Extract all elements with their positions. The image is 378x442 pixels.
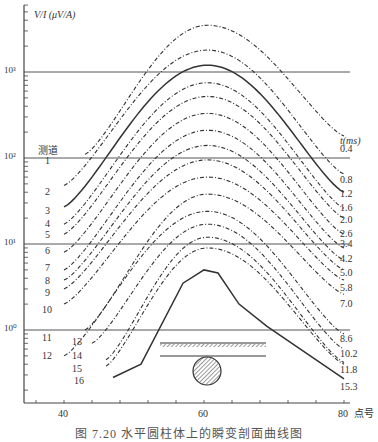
curve-channel-11: [85, 194, 344, 330]
time-label: 2.0: [340, 214, 353, 225]
channel-label: 6: [45, 245, 50, 256]
channel-label: 16: [74, 375, 84, 386]
time-label: 7.0: [340, 298, 353, 309]
curve-channel-4: [64, 83, 344, 225]
curve-channel-1: [85, 25, 344, 154]
x-axis-title: 点号: [354, 408, 374, 419]
curve-channel-10: [64, 177, 344, 304]
channel-label: 13: [72, 336, 82, 347]
curve-channel-7: [64, 130, 344, 270]
channel-label: 14: [72, 350, 82, 361]
x-tick-label: 60: [198, 408, 208, 419]
time-label: 11.8: [340, 364, 357, 375]
ground-hatch: [160, 344, 266, 347]
channel-label: 10: [42, 304, 52, 315]
decay-curves: [64, 25, 344, 379]
time-label: 0.4: [340, 143, 353, 154]
channel-label: 12: [42, 350, 52, 361]
time-label: 1.6: [340, 202, 353, 213]
channel-label: 3: [45, 205, 50, 216]
channel-label: 7: [45, 262, 50, 273]
curve-channel-8: [64, 145, 344, 280]
cylinder-inset: [160, 343, 266, 385]
time-label: 0.8: [340, 174, 353, 185]
channel-label: 2: [45, 186, 50, 197]
x-tick-label: 80: [338, 408, 348, 419]
time-label: 8.6: [340, 333, 353, 344]
channel-label: 11: [42, 332, 52, 343]
time-label: 15.3: [340, 381, 358, 392]
time-label: 4.2: [340, 253, 353, 264]
y-tick-label: 10²: [4, 151, 16, 161]
y-tick-label: 10¹: [4, 237, 16, 247]
channel-label: 9: [45, 287, 50, 298]
cylinder-body: [193, 357, 221, 385]
x-tick-label: 40: [58, 408, 68, 419]
curve-channel-2: [64, 50, 344, 185]
time-label: 3.4: [340, 238, 353, 249]
curve-channel-6: [64, 113, 344, 252]
time-label: 5.8: [340, 282, 353, 293]
channel-label: 1: [45, 155, 50, 166]
y-axis-title: V/I (μV/A): [34, 9, 75, 20]
y-tick-label: 10⁰: [4, 323, 17, 333]
time-label: 10.2: [340, 348, 358, 359]
time-label: 5.0: [340, 267, 353, 278]
channel-label: 8: [45, 275, 50, 286]
time-label: 1.2: [340, 188, 353, 199]
channel-label: 15: [72, 363, 82, 374]
figure-caption: 图 7.20 水平圆柱体上的瞬变剖面曲线图: [0, 424, 378, 442]
y-tick-label: 10³: [4, 65, 16, 75]
channel-label: 5: [45, 229, 50, 240]
channel-label: 4: [45, 218, 50, 229]
curve-channel-16: [113, 270, 344, 379]
curve-channel-5: [64, 96, 344, 234]
